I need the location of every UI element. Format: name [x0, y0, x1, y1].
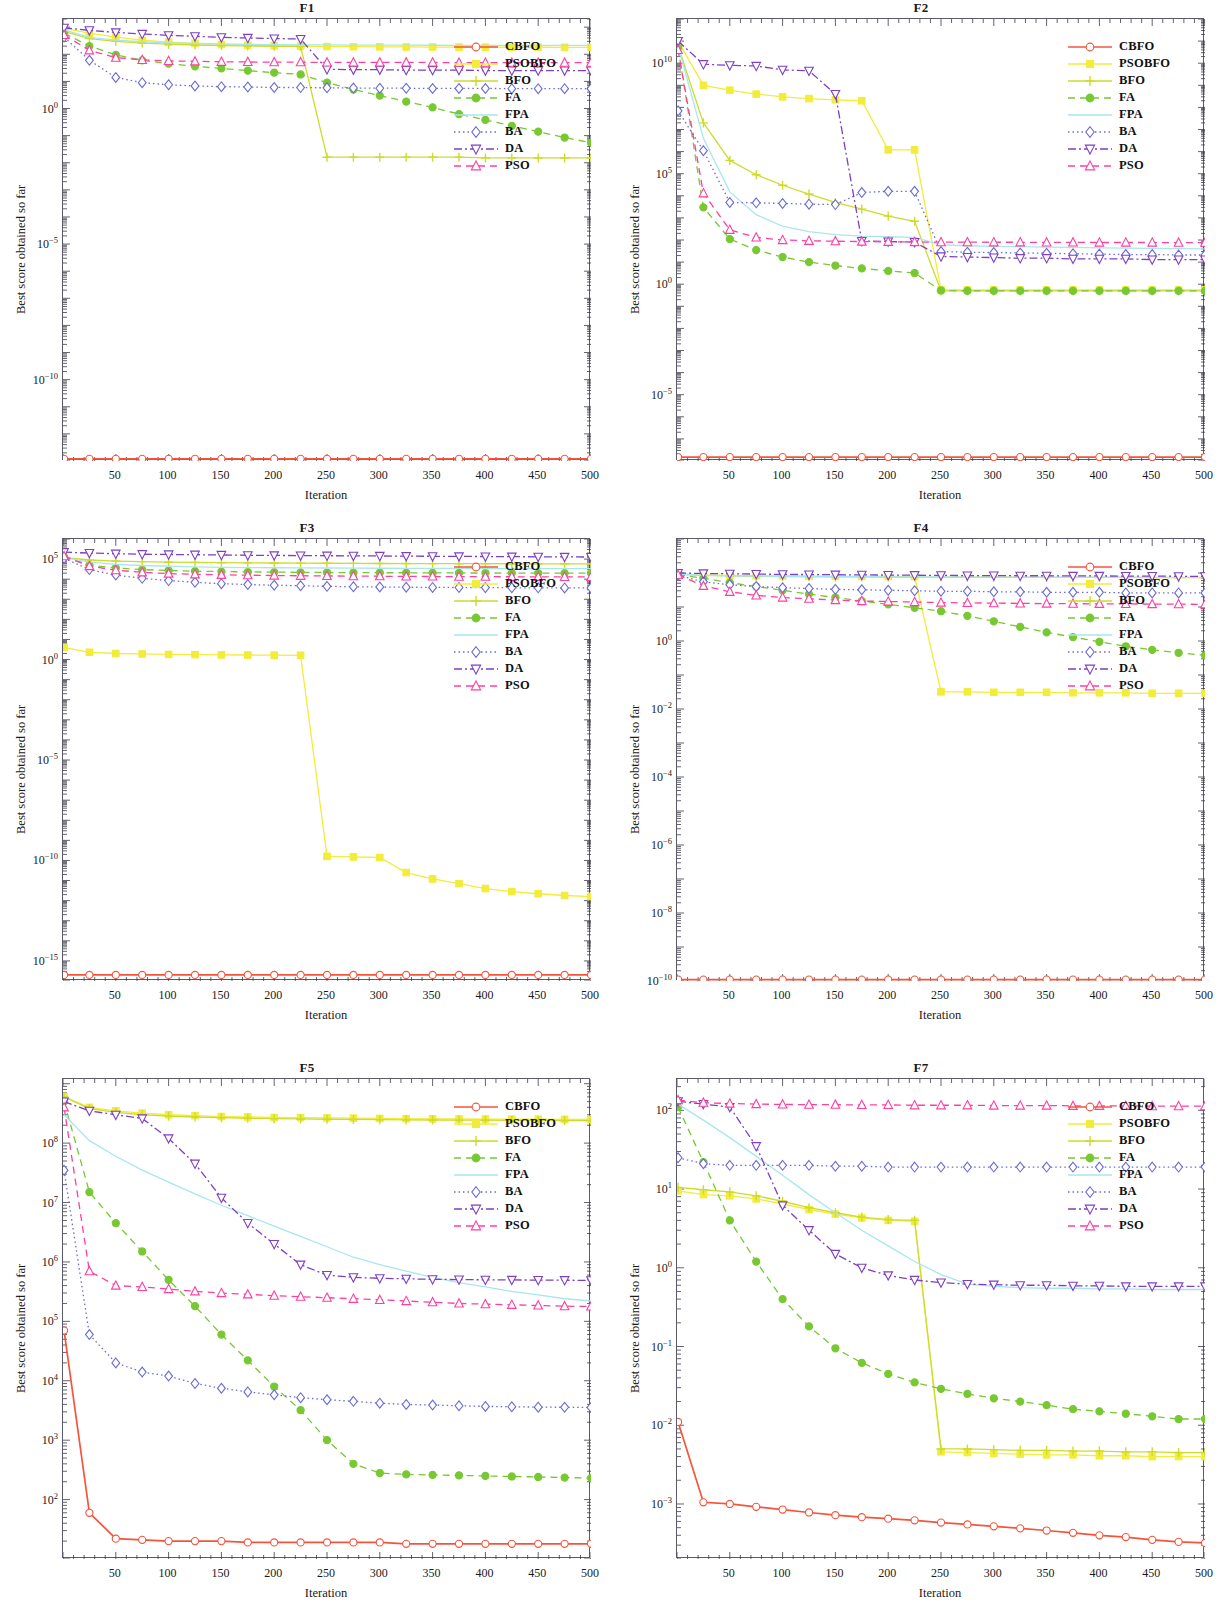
- legend-item-psobfo[interactable]: PSOBFO: [1066, 1115, 1198, 1132]
- legend-item-bfo[interactable]: BFO: [1066, 1132, 1198, 1149]
- legend-label: FA: [500, 610, 521, 625]
- legend-item-da[interactable]: DA: [1066, 140, 1198, 157]
- legend-item-cbfo[interactable]: CBFO: [452, 38, 584, 55]
- legend-item-cbfo[interactable]: CBFO: [1066, 558, 1198, 575]
- legend-swatch-fpa-icon: [1066, 627, 1114, 643]
- legend-item-pso[interactable]: PSO: [1066, 1217, 1198, 1234]
- legend-item-fa[interactable]: FA: [1066, 1149, 1198, 1166]
- legend-item-bfo[interactable]: BFO: [1066, 592, 1198, 609]
- y-axis-label: Best score obtained so far: [628, 705, 643, 834]
- x-tick-label: 500: [1184, 1566, 1224, 1581]
- legend-item-da[interactable]: DA: [1066, 660, 1198, 677]
- legend-item-bfo[interactable]: BFO: [452, 592, 584, 609]
- x-tick-label: 400: [1078, 468, 1118, 483]
- legend-item-fpa[interactable]: FPA: [1066, 1166, 1198, 1183]
- legend-item-bfo[interactable]: BFO: [1066, 72, 1198, 89]
- legend-item-fa[interactable]: FA: [452, 609, 584, 626]
- legend-item-ba[interactable]: BA: [1066, 1183, 1198, 1200]
- legend-item-fpa[interactable]: FPA: [452, 626, 584, 643]
- legend-label: FPA: [500, 627, 529, 642]
- y-tick-label: 1010: [630, 54, 672, 71]
- x-tick-label: 200: [253, 988, 293, 1003]
- legend-swatch-psobfo-icon: [1066, 56, 1114, 72]
- x-tick-label: 250: [306, 988, 346, 1003]
- legend-swatch-pso-icon: [452, 1218, 500, 1234]
- legend-item-fpa[interactable]: FPA: [1066, 106, 1198, 123]
- legend-item-bfo[interactable]: BFO: [452, 1132, 584, 1149]
- legend-item-pso[interactable]: PSO: [452, 1217, 584, 1234]
- legend-swatch-bfo-icon: [1066, 593, 1114, 609]
- x-tick-label: 100: [762, 1566, 802, 1581]
- x-tick-label: 150: [200, 468, 240, 483]
- legend-item-fpa[interactable]: FPA: [452, 1166, 584, 1183]
- x-tick-label: 450: [1131, 1566, 1171, 1581]
- legend-label: FPA: [500, 1167, 529, 1182]
- legend-item-psobfo[interactable]: PSOBFO: [1066, 575, 1198, 592]
- legend-swatch-fpa-icon: [1066, 1167, 1114, 1183]
- legend-label: CBFO: [1114, 559, 1155, 574]
- legend-item-pso[interactable]: PSO: [1066, 677, 1198, 694]
- legend-swatch-da-icon: [452, 661, 500, 677]
- x-tick-label: 350: [1026, 1566, 1066, 1581]
- legend-item-da[interactable]: DA: [452, 1200, 584, 1217]
- legend-item-ba[interactable]: BA: [452, 123, 584, 140]
- x-tick-label: 450: [517, 988, 557, 1003]
- legend-item-ba[interactable]: BA: [452, 643, 584, 660]
- legend: CBFOPSOBFOBFOFAFPABADAPSO: [1066, 558, 1198, 698]
- legend-item-fa[interactable]: FA: [1066, 89, 1198, 106]
- legend-item-psobfo[interactable]: PSOBFO: [1066, 55, 1198, 72]
- x-tick-label: 100: [148, 1566, 188, 1581]
- y-tick-label: 100: [16, 651, 58, 668]
- legend-label: PSO: [1114, 158, 1144, 173]
- legend-item-psobfo[interactable]: PSOBFO: [452, 1115, 584, 1132]
- y-tick-label: 101: [630, 1180, 672, 1197]
- legend-item-ba[interactable]: BA: [452, 1183, 584, 1200]
- panel-title: F1: [0, 0, 614, 16]
- legend-item-fa[interactable]: FA: [1066, 609, 1198, 626]
- x-tick-label: 350: [412, 988, 452, 1003]
- legend-swatch-psobfo-icon: [452, 1116, 500, 1132]
- legend-item-cbfo[interactable]: CBFO: [1066, 38, 1198, 55]
- x-tick-label: 200: [253, 468, 293, 483]
- legend-swatch-ba-icon: [452, 644, 500, 660]
- panel-f3: F310510010−510−1010−15501001502002503003…: [0, 520, 614, 1040]
- x-axis-label: Iteration: [62, 488, 590, 503]
- x-tick-label: 150: [200, 988, 240, 1003]
- legend-item-da[interactable]: DA: [452, 140, 584, 157]
- y-axis-label: Best score obtained so far: [628, 185, 643, 314]
- legend-item-fa[interactable]: FA: [452, 1149, 584, 1166]
- x-tick-label: 150: [200, 1566, 240, 1581]
- legend-label: DA: [1114, 141, 1137, 156]
- x-tick-label: 50: [95, 468, 135, 483]
- legend-item-pso[interactable]: PSO: [452, 677, 584, 694]
- legend-item-fpa[interactable]: FPA: [452, 106, 584, 123]
- legend-label: PSO: [1114, 1218, 1144, 1233]
- legend-item-psobfo[interactable]: PSOBFO: [452, 55, 584, 72]
- legend-item-cbfo[interactable]: CBFO: [452, 1098, 584, 1115]
- legend-item-cbfo[interactable]: CBFO: [1066, 1098, 1198, 1115]
- legend-item-fa[interactable]: FA: [452, 89, 584, 106]
- legend-swatch-fa-icon: [452, 1150, 500, 1166]
- x-tick-label: 450: [517, 468, 557, 483]
- legend-label: FA: [1114, 610, 1135, 625]
- legend-item-cbfo[interactable]: CBFO: [452, 558, 584, 575]
- legend-item-bfo[interactable]: BFO: [452, 72, 584, 89]
- legend-swatch-pso-icon: [1066, 678, 1114, 694]
- legend-label: PSOBFO: [500, 1116, 556, 1131]
- y-tick-label: 10−3: [630, 1495, 672, 1512]
- series-cbfo: [677, 1418, 1205, 1546]
- legend-label: BA: [1114, 124, 1137, 139]
- x-tick-label: 250: [920, 468, 960, 483]
- panel-f2: F2101010510010−5501001502002503003504004…: [614, 0, 1228, 520]
- legend-item-da[interactable]: DA: [1066, 1200, 1198, 1217]
- x-tick-label: 200: [867, 468, 907, 483]
- legend-item-ba[interactable]: BA: [1066, 643, 1198, 660]
- x-tick-label: 500: [570, 1566, 610, 1581]
- legend-item-ba[interactable]: BA: [1066, 123, 1198, 140]
- legend-item-pso[interactable]: PSO: [1066, 157, 1198, 174]
- legend-item-pso[interactable]: PSO: [452, 157, 584, 174]
- legend-item-da[interactable]: DA: [452, 660, 584, 677]
- legend-swatch-fa-icon: [1066, 610, 1114, 626]
- legend-item-psobfo[interactable]: PSOBFO: [452, 575, 584, 592]
- legend-item-fpa[interactable]: FPA: [1066, 626, 1198, 643]
